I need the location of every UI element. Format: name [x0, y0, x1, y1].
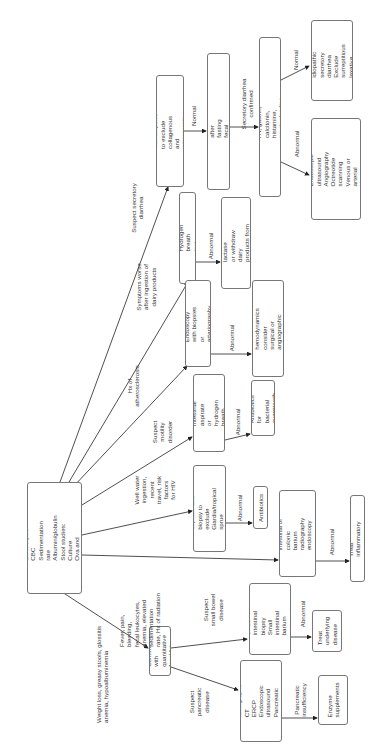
node-enzyme-supplements: Enzyme supplements — [318, 675, 348, 725]
label-suspect-secretory: Suspect secretory diarrhea — [130, 178, 146, 238]
node-colonoscopy: Colonoscopy with biopsies to exclude col… — [156, 75, 184, 187]
node-treat-inflammatory: Treat inflammatory disease — [350, 495, 365, 582]
label-hx-atherosclerosis: Hx of atherosclerosis — [126, 364, 142, 408]
node-supplemental-lactase-text: Supplemental lactase or withdraw dairy p… — [221, 224, 251, 262]
node-improve-hemodynamics-text: Improve hemodynamics consider surgical o… — [252, 308, 284, 350]
label-abnormal-plasma: Abnormal — [293, 128, 301, 160]
label-well-water: Well water ingestion, recent travel, ris… — [133, 464, 177, 516]
node-small-intestinal-aspirate: Small intestinal aspirate or hydrogen br… — [193, 374, 225, 452]
node-treat-inflammatory-text: Treat inflammatory disease — [350, 521, 365, 556]
label-fever-pain: Fever, pain, bleeding, fecal leukocytes,… — [118, 567, 162, 647]
node-assess-idiopathic-text: Assess for idiopathic secretory diarrhea… — [311, 44, 353, 78]
label-abnormal-small-biopsy: Abnormal — [299, 598, 307, 630]
label-normal-1: Normal — [190, 103, 198, 129]
node-hydrogen-breath-text: Hydrogen breath test — [179, 225, 196, 252]
node-improve-hemodynamics: Improve hemodynamics consider surgical o… — [252, 280, 284, 377]
node-treat-underlying-text: Treat underlying disease — [316, 617, 338, 646]
node-ct-tests-text: CT Endoscopic ultrasound Angiography Oct… — [311, 152, 361, 187]
label-abnormal-giardia: Abnormal — [236, 492, 244, 524]
label-abnormal-aspirate: Abnormal — [234, 406, 242, 438]
root-node-history-physical: History and physical Pertinent laborator… — [27, 482, 82, 594]
label-secretory-confirmed: Secretory diarrhea confirmed — [240, 74, 256, 134]
node-hydrogen-breath: Hydrogen breath test — [179, 192, 196, 284]
label-abnormal-barium: Abnormal — [328, 526, 336, 558]
node-abdominal-radiographs-text: Abdominal radiographs CT ERCP Endoscopic… — [240, 685, 282, 718]
label-normal-2: Normal — [292, 47, 300, 73]
label-suspect-pancreatic: Suspect pancreatic disease — [188, 682, 212, 722]
node-intestinal-aspirate-giardia-text: Intestinal aspirate and biopsy to exclud… — [193, 488, 226, 530]
node-assess-idiopathic: Assess for idiopathic secretory diarrhea… — [311, 20, 353, 101]
node-abdominal-radiographs: Abdominal radiographs CT ERCP Endoscopic… — [240, 660, 282, 742]
node-enzyme-supplements-text: Enzyme supplements — [326, 682, 341, 717]
label-symptoms-dairy: Symptoms worse after ingestion of dairy … — [135, 257, 159, 317]
label-pancreatic-insufficiency: Pancreatic insufficiency — [293, 678, 309, 722]
label-abnormal-endoscopy: Abnormal — [228, 322, 236, 354]
label-abnormal-hydrogen: Abnormal — [207, 230, 215, 262]
node-endoscopy-biopsies-text: Endoscopy with biopsies or arteriography — [185, 305, 211, 341]
node-ct-tests: CT Endoscopic ultrasound Angiography Oct… — [311, 118, 361, 220]
node-intestinal-aspirate-giardia: Intestinal aspirate and biopsy to exclud… — [193, 465, 226, 552]
label-suspect-motility: Suspect motility disorder — [151, 416, 175, 448]
node-plasma-vip-text: Plasma VIP, 5-HT, gastrin, calcitonin, h… — [259, 96, 281, 138]
node-small-intestinal-biopsy: Small intestinal biopsy Small intestinal… — [249, 583, 291, 655]
node-barium-radiography-text: Small intestinal or colonic barium radio… — [279, 517, 316, 550]
node-endoscopy-biopsies: Endoscopy with biopsies or arteriography — [185, 280, 211, 367]
node-stool-volume-text: Stool volume before and after fasting fe… — [207, 106, 230, 137]
node-colonoscopy-text: Colonoscopy with biopsies to exclude col… — [156, 113, 184, 149]
node-antibiotics-text: Antibiotics — [257, 493, 264, 521]
label-weight-loss: Weight loss, greasy stools, glossitis an… — [95, 603, 111, 723]
node-plasma-vip: Plasma VIP, 5-HT, gastrin, calcitonin, h… — [259, 37, 281, 197]
label-suspect-small-bowel: Suspect small bowel disease — [202, 590, 226, 630]
node-antibiotics: Antibiotics — [253, 486, 268, 529]
node-small-intestinal-biopsy-text: Small intestinal biopsy Small intestinal… — [249, 603, 291, 636]
node-small-intestinal-aspirate-text: Small intestinal aspirate or hydrogen br… — [193, 400, 225, 426]
node-stool-volume: Stool volume before and after fasting fe… — [207, 53, 230, 190]
node-supplemental-lactase: Supplemental lactase or withdraw dairy p… — [221, 197, 251, 289]
node-antibiotics-bacterial-text: Antibiotics for bacterial overgrowth — [251, 393, 275, 424]
node-treat-underlying: Treat underlying disease — [312, 610, 342, 652]
node-antibiotics-bacterial: Antibiotics for bacterial overgrowth — [251, 380, 275, 436]
root-node-text: History and physical Pertinent laborator… — [27, 515, 82, 560]
node-barium-radiography: Small intestinal or colonic barium radio… — [279, 490, 316, 577]
